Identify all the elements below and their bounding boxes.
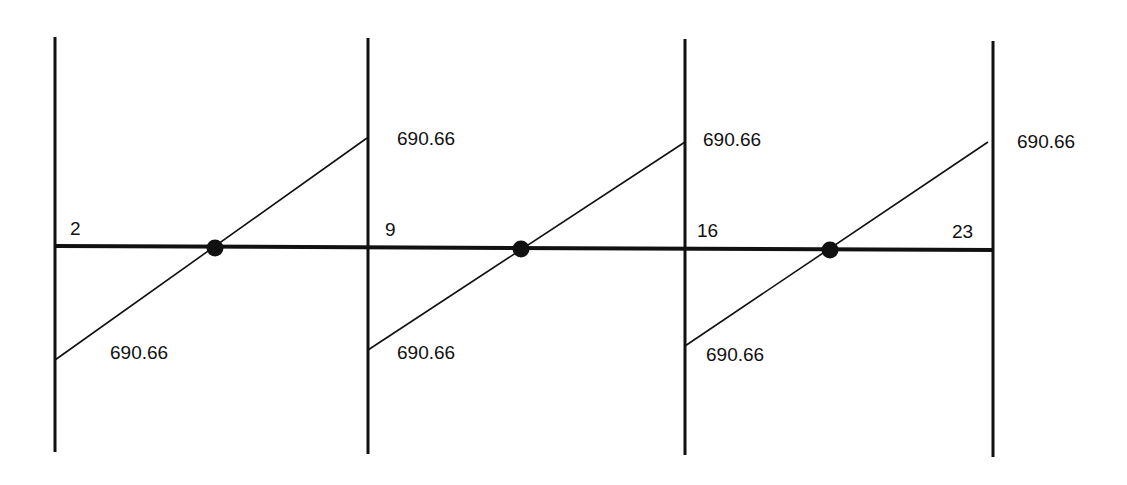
span-3-upper-value: 690.66 bbox=[1017, 131, 1075, 152]
span-2-lower-value: 690.66 bbox=[397, 342, 455, 363]
span-2-upper-value: 690.66 bbox=[703, 129, 761, 150]
node-label-1: 2 bbox=[70, 218, 81, 239]
node-label-3: 16 bbox=[697, 220, 718, 241]
span-3-lower-value: 690.66 bbox=[706, 344, 764, 365]
node-label-2: 9 bbox=[385, 219, 396, 240]
node-label-4: 23 bbox=[952, 221, 973, 242]
moment-diagram: 2 9 16 23 690.66 690.66 690.66 690.66 69… bbox=[0, 0, 1127, 485]
span-3-zero-point bbox=[822, 242, 839, 259]
span-3-diagonal bbox=[685, 142, 988, 346]
span-1-zero-point bbox=[207, 240, 224, 257]
span-1-lower-value: 690.66 bbox=[110, 342, 168, 363]
span-1-upper-value: 690.66 bbox=[397, 128, 455, 149]
span-2-zero-point bbox=[513, 241, 530, 258]
